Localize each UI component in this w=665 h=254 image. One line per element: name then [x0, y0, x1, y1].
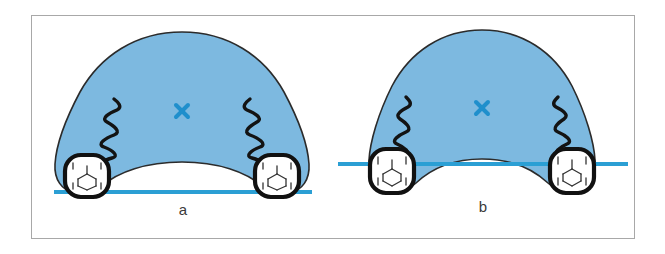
figure-frame: a [31, 15, 635, 239]
molar-left-a [65, 155, 109, 197]
figure-root: a [0, 0, 665, 254]
molar-right-a-crown [255, 155, 299, 197]
molar-left-a-crown [65, 155, 109, 197]
panel-a-label: a [32, 202, 334, 217]
molar-right-a [255, 155, 299, 197]
panel-a: a [32, 16, 334, 240]
panel-b: b [332, 16, 634, 240]
molar-left-b [370, 149, 414, 193]
molar-right-b [550, 149, 594, 193]
panel-b-label: b [332, 199, 634, 214]
